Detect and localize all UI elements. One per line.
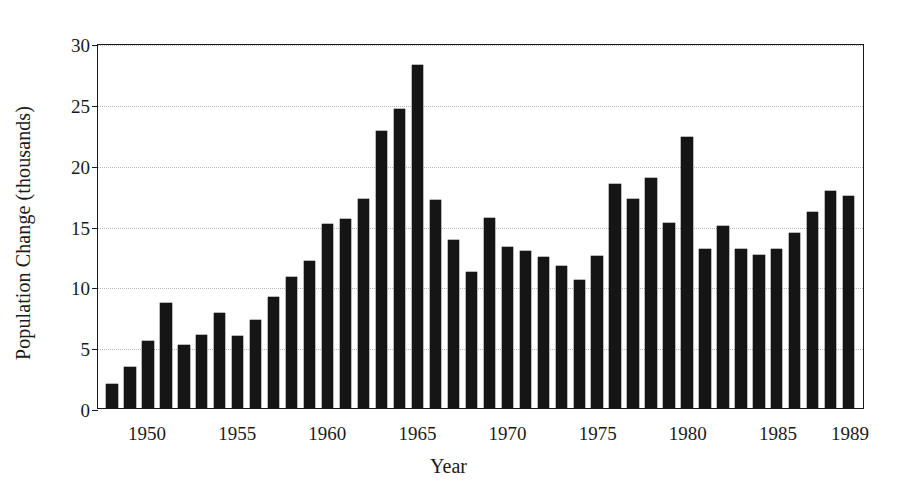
bar-cell: [588, 45, 606, 408]
bar-chart-figure: Population Change (thousands) 0510152025…: [0, 0, 897, 493]
bar-cell: [103, 45, 121, 408]
bar: [753, 255, 764, 408]
bar: [789, 233, 800, 408]
bar-cell: [426, 45, 444, 408]
x-axis-tick-label: 1975: [579, 423, 617, 445]
x-axis-tick-label: 1980: [669, 423, 707, 445]
bar: [609, 184, 620, 408]
bar-cell: [498, 45, 516, 408]
x-axis-tick-label: 1965: [398, 423, 436, 445]
bar: [286, 277, 297, 408]
bar: [538, 257, 549, 408]
y-axis-tick-label: 20: [52, 158, 90, 177]
x-axis-tick-label: 1985: [759, 423, 797, 445]
y-axis-tick-label: 0: [52, 401, 90, 420]
bar-cell: [642, 45, 660, 408]
bar: [340, 219, 351, 408]
bar: [645, 178, 656, 408]
bar-cell: [462, 45, 480, 408]
bar-cell: [804, 45, 822, 408]
bar-cell: [678, 45, 696, 408]
bar-cell: [570, 45, 588, 408]
bar-cell: [337, 45, 355, 408]
bar-cell: [193, 45, 211, 408]
y-axis-tick-label: 15: [52, 219, 90, 238]
bar-cell: [624, 45, 642, 408]
y-axis-title: Population Change (thousands): [12, 53, 42, 413]
plot-area: 051015202530: [97, 44, 864, 409]
bar-cell: [768, 45, 786, 408]
bar-cell: [822, 45, 840, 408]
bar: [250, 320, 261, 408]
x-axis-tick-label: 1955: [218, 423, 256, 445]
x-axis-title: Year: [0, 455, 897, 478]
bar-cell: [283, 45, 301, 408]
bar: [376, 131, 387, 408]
bar: [502, 247, 513, 408]
bar-cell: [301, 45, 319, 408]
x-axis-tick-label: 1950: [128, 423, 166, 445]
bar-cell: [175, 45, 193, 408]
bar: [124, 367, 135, 408]
bar-cell: [840, 45, 858, 408]
bar-cell: [534, 45, 552, 408]
bar-cell: [732, 45, 750, 408]
bar-cell: [211, 45, 229, 408]
y-axis-tick-label: 5: [52, 340, 90, 359]
bar-cell: [480, 45, 498, 408]
bar: [663, 223, 674, 408]
bar: [627, 199, 638, 408]
bar-cell: [444, 45, 462, 408]
bar-cell: [391, 45, 409, 408]
bar: [556, 266, 567, 408]
bar-cell: [139, 45, 157, 408]
bar: [735, 249, 746, 408]
bar: [196, 335, 207, 408]
bar: [232, 336, 243, 408]
bar-cell: [157, 45, 175, 408]
y-axis-tick-label: 30: [52, 36, 90, 55]
bar-cell: [516, 45, 534, 408]
bar: [160, 303, 171, 408]
bar: [574, 280, 585, 408]
bar-cell: [696, 45, 714, 408]
bar: [412, 65, 423, 408]
bar: [466, 272, 477, 408]
bar: [304, 261, 315, 408]
bar: [843, 196, 854, 408]
x-axis-tick-label: 1989: [831, 423, 869, 445]
bar: [106, 384, 117, 408]
bar-cell: [660, 45, 678, 408]
bar: [591, 256, 602, 408]
bar: [430, 200, 441, 408]
bar: [214, 313, 225, 408]
bar-cell: [319, 45, 337, 408]
y-axis-tick-label: 25: [52, 97, 90, 116]
bar: [681, 137, 692, 408]
bar-cell: [714, 45, 732, 408]
bar: [484, 218, 495, 408]
bar-cell: [355, 45, 373, 408]
bar: [699, 249, 710, 408]
bar: [807, 212, 818, 408]
bar: [178, 345, 189, 408]
bar-cell: [229, 45, 247, 408]
bar-cell: [786, 45, 804, 408]
bar-cell: [247, 45, 265, 408]
bar: [394, 109, 405, 408]
bar: [448, 240, 459, 408]
bar: [717, 226, 728, 409]
y-axis-tick-label: 10: [52, 279, 90, 298]
bar-cell: [750, 45, 768, 408]
x-axis-ticks-group: 195019551960196519701975198019851989: [97, 413, 864, 443]
bar: [268, 297, 279, 408]
bar: [142, 341, 153, 408]
bar: [358, 199, 369, 408]
bar: [520, 251, 531, 408]
bar: [322, 224, 333, 408]
x-axis-tick-label: 1960: [308, 423, 346, 445]
bar-cell: [606, 45, 624, 408]
bar-cell: [552, 45, 570, 408]
bar-cell: [265, 45, 283, 408]
bar-cell: [408, 45, 426, 408]
